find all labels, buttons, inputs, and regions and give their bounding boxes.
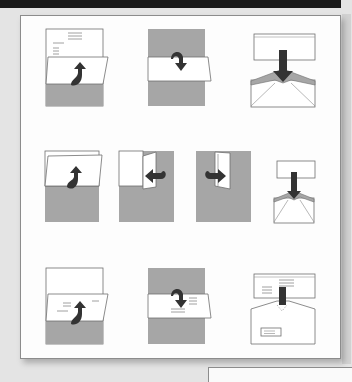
left-panel [119, 151, 143, 186]
folding-panel [143, 152, 156, 189]
window-envelope-body [251, 301, 315, 344]
page-edge-shadow [342, 14, 351, 364]
folded-panel [215, 152, 230, 189]
row3-step3-window-envelope [251, 273, 317, 345]
row1-step2-fold-down [147, 29, 213, 107]
address-window [261, 328, 281, 336]
row2-step2-fold-left [119, 151, 177, 223]
top-dark-band [0, 0, 341, 8]
row3-step1-fold-up [44, 268, 110, 346]
row2-step1-fold-up [44, 151, 104, 223]
next-card-edge [208, 367, 352, 382]
row1-step1-fold-up [44, 29, 110, 107]
row2-step4-insert-envelope [274, 160, 318, 224]
envelope-body [274, 198, 314, 223]
insert-arrow-icon [279, 287, 286, 305]
row2-step3-fold-right [196, 151, 254, 223]
envelope-body [251, 80, 315, 107]
row1-step3-insert-envelope [251, 33, 317, 108]
row3-step2-fold-down [147, 268, 213, 346]
